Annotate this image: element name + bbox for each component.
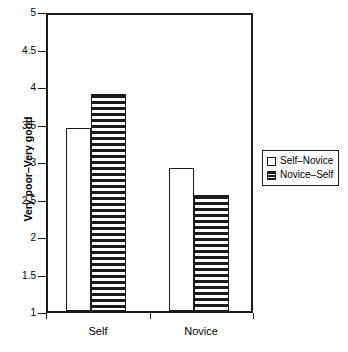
y-tick-mark <box>38 13 46 14</box>
plot-area <box>46 13 253 313</box>
legend-item-novice-self: Novice–Self <box>267 168 333 182</box>
y-tick-label: 4 <box>0 83 36 93</box>
x-axis-label-novice: Novice <box>161 326 241 337</box>
legend-swatch-striped-icon <box>267 171 276 180</box>
y-tick-mark <box>38 88 46 89</box>
y-tick-label: 2 <box>0 233 36 243</box>
y-tick-mark <box>38 126 46 127</box>
y-tick-mark <box>38 276 46 277</box>
legend-label: Novice–Self <box>280 170 333 180</box>
y-axis-title: Very poor–Very good <box>22 89 34 249</box>
y-tick-mark <box>38 163 46 164</box>
x-tick-mark <box>46 313 47 319</box>
y-tick-mark <box>38 238 46 239</box>
bar-novice-selfnovice <box>169 168 194 311</box>
bar-self-selfnovice <box>66 128 91 311</box>
legend: Self–Novice Novice–Self <box>262 150 339 186</box>
y-tick-label: 2.5 <box>0 196 36 206</box>
x-axis-label-self: Self <box>58 326 138 337</box>
y-tick-mark <box>38 313 46 314</box>
y-tick-mark <box>38 201 46 202</box>
y-tick-mark <box>38 51 46 52</box>
bar-self-noviceself <box>91 94 126 311</box>
x-tick-mark <box>150 313 151 319</box>
y-tick-label: 4.5 <box>0 46 36 56</box>
y-tick-label: 3 <box>0 158 36 168</box>
bar-novice-noviceself <box>194 195 229 311</box>
x-tick-mark <box>253 313 254 319</box>
y-tick-label: 1 <box>0 308 36 318</box>
y-tick-label: 5 <box>0 8 36 18</box>
y-tick-label: 1.5 <box>0 271 36 281</box>
y-tick-label: 3.5 <box>0 121 36 131</box>
legend-label: Self–Novice <box>280 156 333 166</box>
legend-item-self-novice: Self–Novice <box>267 154 333 168</box>
legend-swatch-open-icon <box>267 157 276 166</box>
chart-figure: Very poor–Very good 5 4.5 4 3.5 3 2.5 2 … <box>0 0 348 352</box>
